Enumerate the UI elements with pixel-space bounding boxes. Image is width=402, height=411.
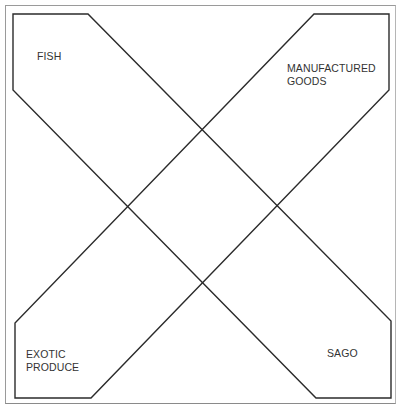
label-fish: FISH	[37, 50, 61, 63]
label-manufactured-goods: MANUFACTURED GOODS	[287, 62, 376, 88]
label-exotic-produce-line-1: EXOTIC	[26, 348, 79, 361]
label-exotic-produce-line-2: PRODUCE	[26, 361, 79, 374]
label-manufactured-goods-line-1: MANUFACTURED	[287, 62, 376, 75]
label-sago-line-1: SAGO	[327, 347, 358, 360]
label-exotic-produce: EXOTIC PRODUCE	[26, 348, 79, 374]
label-manufactured-goods-line-2: GOODS	[287, 75, 376, 88]
label-sago: SAGO	[327, 347, 358, 360]
label-fish-line-1: FISH	[37, 50, 61, 63]
